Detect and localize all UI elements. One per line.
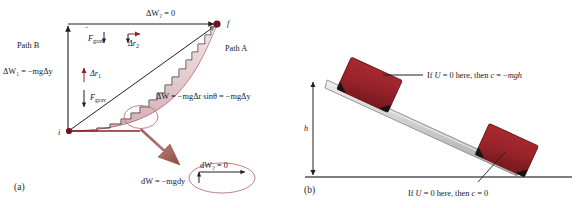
point-i-marker	[66, 128, 72, 134]
height-label: h	[304, 124, 308, 133]
inset-work-vertical-label: dW = −mgdy	[141, 177, 186, 186]
inset-work-horizontal-label: dW₂ = 0	[200, 161, 228, 170]
panel-b-caption: (b)	[304, 185, 315, 196]
work-top-label: ΔW₂ = 0	[146, 9, 175, 18]
top-annotation-label: If U = 0 here, then c = −mgh	[427, 71, 522, 80]
force-gravity-top-vector-hat: ⃗	[84, 26, 88, 29]
work-diagonal-label: ΔW = −mgΔr sinθ = −mgΔy	[156, 92, 251, 101]
panel-a: i f Path B Path A ΔW₂ = 0 ΔW₁ = −mgΔy ΔW…	[3, 9, 255, 193]
point-f-label: f	[227, 19, 231, 28]
force-gravity-top-label: Fgrav	[87, 34, 105, 44]
point-f-marker	[213, 20, 220, 27]
block-on-incline-bottom	[475, 123, 538, 176]
panel-a-caption: (a)	[14, 182, 25, 193]
work-left-label: ΔW₁ = −mgΔy	[3, 67, 54, 76]
path-a-label: Path A	[225, 44, 247, 53]
displacement-2-label: Δr2	[127, 39, 139, 49]
force-gravity-left-label: Fgrav	[89, 93, 107, 103]
point-i-label: i	[58, 128, 61, 137]
figure-canvas: i f Path B Path A ΔW₂ = 0 ΔW₁ = −mgΔy ΔW…	[0, 0, 581, 208]
displacement-1-label: Δr1	[89, 69, 101, 79]
panel-b: h If U = 0 here, then c = −mgh If U = 0 …	[304, 57, 572, 198]
physics-figure: i f Path B Path A ΔW₂ = 0 ΔW₁ = −mgΔy ΔW…	[0, 0, 581, 208]
block-on-incline-top	[337, 57, 402, 112]
bottom-annotation-label: If U = 0 here, then c = 0	[408, 189, 488, 198]
path-b-label: Path B	[17, 41, 40, 50]
callout-arrow	[140, 129, 180, 165]
